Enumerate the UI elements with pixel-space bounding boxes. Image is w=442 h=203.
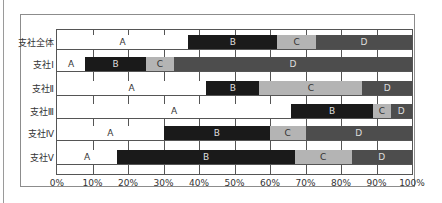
x-tick-label: 20% bbox=[118, 178, 138, 188]
bar-segment-b: B bbox=[291, 104, 373, 118]
bar-segment-b: B bbox=[85, 57, 145, 71]
bar-segment-b: B bbox=[117, 150, 295, 164]
row-line bbox=[57, 71, 412, 72]
bar-segment-c: C bbox=[270, 126, 306, 140]
bar-segment-b: B bbox=[188, 35, 277, 49]
category-label: 支社Ⅱ bbox=[32, 82, 54, 95]
bar-segment-d: D bbox=[352, 150, 412, 164]
row-line bbox=[57, 164, 412, 165]
x-tick-label: 0% bbox=[50, 178, 64, 188]
bar-segment-b: B bbox=[164, 126, 271, 140]
stacked-bar: ABCD bbox=[57, 81, 412, 95]
category-label: 支社全体 bbox=[18, 36, 54, 49]
x-tick-label: 30% bbox=[153, 178, 173, 188]
bar-segment-a: A bbox=[57, 104, 291, 118]
bar-segment-c: C bbox=[373, 104, 391, 118]
bar-segment-d: D bbox=[316, 35, 412, 49]
category-label: 支社Ⅲ bbox=[30, 105, 54, 118]
row-line bbox=[57, 118, 412, 119]
bar-segment-c: C bbox=[259, 81, 362, 95]
bar-segment-d: D bbox=[306, 126, 413, 140]
bar-segment-d: D bbox=[391, 104, 412, 118]
page-edge-line bbox=[3, 0, 4, 203]
stacked-bar: ABCD bbox=[57, 150, 412, 164]
bar-segment-a: A bbox=[57, 35, 188, 49]
x-tick-label: 50% bbox=[224, 178, 244, 188]
bar-segment-d: D bbox=[362, 81, 412, 95]
x-tick-label: 100% bbox=[399, 178, 425, 188]
row-line bbox=[57, 95, 412, 96]
stacked-bar: ABCD bbox=[57, 57, 412, 71]
x-tick-label: 40% bbox=[189, 178, 209, 188]
bar-segment-c: C bbox=[277, 35, 316, 49]
bar-segment-c: C bbox=[295, 150, 352, 164]
bar-segment-a: A bbox=[57, 57, 85, 71]
x-tick-label: 60% bbox=[260, 178, 280, 188]
x-tick-label: 10% bbox=[82, 178, 102, 188]
category-label: 支社Ⅰ bbox=[33, 58, 54, 71]
bar-segment-b: B bbox=[206, 81, 259, 95]
bar-segment-d: D bbox=[174, 57, 412, 71]
x-tick-label: 80% bbox=[331, 178, 351, 188]
row-line bbox=[57, 140, 412, 141]
stacked-bar: ABCD bbox=[57, 104, 412, 118]
bar-segment-a: A bbox=[57, 150, 117, 164]
bar-segment-a: A bbox=[57, 81, 206, 95]
category-label: 支社Ⅴ bbox=[30, 151, 54, 164]
stacked-bar: ABCD bbox=[57, 126, 412, 140]
bar-segment-a: A bbox=[57, 126, 164, 140]
plot-area: ABCDABCDABCDABCDABCDABCD bbox=[56, 29, 413, 175]
row-line bbox=[57, 49, 412, 50]
x-tick-label: 90% bbox=[366, 178, 386, 188]
bar-segment-c: C bbox=[146, 57, 174, 71]
stacked-bar: ABCD bbox=[57, 35, 412, 49]
x-tick-label: 70% bbox=[295, 178, 315, 188]
category-label: 支社Ⅳ bbox=[28, 127, 54, 140]
